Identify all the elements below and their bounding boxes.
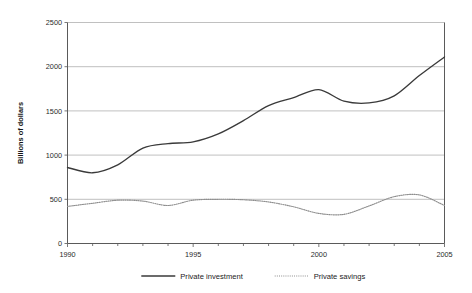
x-tick-label: 2005 [436, 250, 452, 259]
y-tick-label: 2500 [46, 18, 62, 27]
y-tick-label: 500 [50, 195, 62, 204]
x-tick-label: 1995 [185, 250, 201, 259]
legend-label-2: Private savings [314, 272, 366, 281]
legend-label-1: Private investment [180, 272, 243, 281]
y-tick-label: 1000 [46, 151, 62, 160]
line-chart: 05001000150020002500 1990199520002005 Bi… [0, 0, 472, 293]
y-axis-title: Billions of dollars [16, 102, 25, 164]
x-tick-label: 2000 [311, 250, 327, 259]
y-tick-label: 0 [58, 239, 62, 248]
y-tick-label: 1500 [46, 107, 62, 116]
y-axis-title-text: Billions of dollars [16, 102, 25, 164]
chart-container: 05001000150020002500 1990199520002005 Bi… [0, 0, 472, 293]
y-tick-label: 2000 [46, 62, 62, 71]
x-tick-label: 1990 [59, 250, 75, 259]
